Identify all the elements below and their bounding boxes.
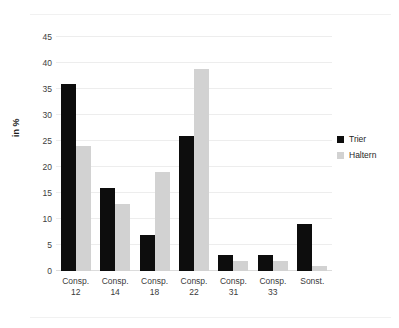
x-tick-label: Consp.14 (95, 276, 134, 298)
legend-label: Haltern (349, 150, 376, 160)
bar-trier (297, 224, 312, 271)
x-tick-label: Consp.22 (174, 276, 213, 298)
bar-chart: in % 051015202530354045 Consp.12Consp.14… (0, 0, 399, 328)
y-tick-label-35: 35 (30, 84, 52, 94)
bar-group (293, 27, 332, 271)
x-tick-label-line2: 22 (174, 287, 213, 298)
plot-area (56, 27, 332, 271)
legend-label: Trier (349, 134, 366, 144)
y-axis-tick-labels: 051015202530354045 (26, 27, 52, 271)
x-tick-label-line2: 18 (135, 287, 174, 298)
legend-item[interactable]: Haltern (337, 150, 376, 160)
bar-trier (258, 255, 273, 271)
y-tick-label-10: 10 (30, 214, 52, 224)
bar-trier (140, 235, 155, 271)
bar-haltern (312, 266, 327, 271)
x-tick-label-line1: Consp. (102, 276, 129, 286)
x-tick-label-line1: Consp. (62, 276, 89, 286)
bar-haltern (194, 69, 209, 271)
x-tick-label-line1: Consp. (220, 276, 247, 286)
x-tick-label-line2: 31 (214, 287, 253, 298)
y-tick-label-20: 20 (30, 162, 52, 172)
bar-group (135, 27, 174, 271)
bar-haltern (76, 146, 91, 271)
chart-legend: TrierHaltern (337, 134, 376, 160)
x-tick-label-line1: Sonst. (300, 276, 324, 286)
bar-haltern (233, 261, 248, 271)
bar-group (253, 27, 292, 271)
bar-trier (100, 188, 115, 271)
legend-item[interactable]: Trier (337, 134, 376, 144)
legend-swatch-icon (337, 136, 344, 143)
x-axis-tick-labels: Consp.12Consp.14Consp.18Consp.22Consp.31… (56, 276, 332, 316)
x-tick-label-line1: Consp. (141, 276, 168, 286)
y-tick-label-0: 0 (30, 266, 52, 276)
bar-group (174, 27, 213, 271)
y-tick-label-25: 25 (30, 136, 52, 146)
bar-trier (61, 84, 76, 271)
y-tick-label-40: 40 (30, 58, 52, 68)
bar-haltern (273, 261, 288, 271)
bar-haltern (155, 172, 170, 271)
frame-line-bottom (30, 317, 391, 318)
x-tick-label: Consp.12 (56, 276, 95, 298)
y-axis-title: in % (11, 118, 21, 137)
x-tick-label-line2: 12 (56, 287, 95, 298)
y-tick-label-15: 15 (30, 188, 52, 198)
bar-group (214, 27, 253, 271)
frame-line-top (30, 14, 391, 15)
x-tick-label: Consp.33 (253, 276, 292, 298)
y-tick-label-30: 30 (30, 110, 52, 120)
bar-haltern (115, 204, 130, 271)
legend-swatch-icon (337, 152, 344, 159)
x-tick-label-line2: 14 (95, 287, 134, 298)
bar-trier (218, 255, 233, 271)
x-tick-label-line1: Consp. (259, 276, 286, 286)
x-tick-label: Consp.18 (135, 276, 174, 298)
y-tick-label-5: 5 (30, 240, 52, 250)
x-tick-label: Consp.31 (214, 276, 253, 298)
x-tick-label-line1: Consp. (181, 276, 208, 286)
bar-trier (179, 136, 194, 271)
bar-group (56, 27, 95, 271)
x-tick-label-line2: 33 (253, 287, 292, 298)
y-tick-label-45: 45 (30, 32, 52, 42)
bar-group (95, 27, 134, 271)
x-tick-label: Sonst. (293, 276, 332, 287)
